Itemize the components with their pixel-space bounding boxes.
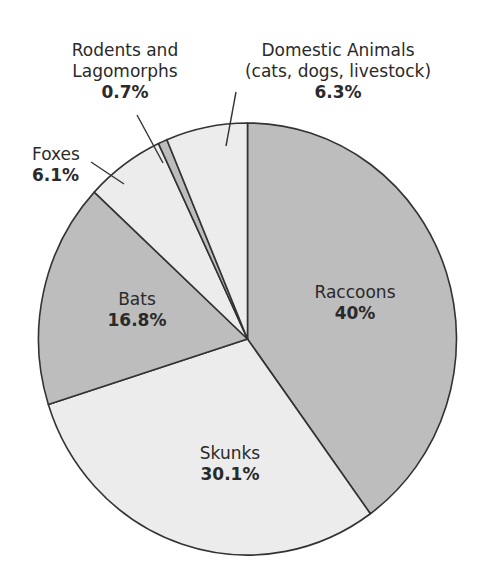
pie-slices [39, 123, 457, 555]
label-rodents-line2: Lagomorphs [60, 61, 190, 82]
label-bats-name: Bats [82, 289, 192, 310]
label-domestic: Domestic Animals (cats, dogs, livestock)… [228, 40, 448, 103]
label-foxes-pct: 6.1% [32, 165, 80, 186]
label-skunks-pct: 30.1% [170, 464, 290, 485]
label-domestic-line2: (cats, dogs, livestock) [228, 61, 448, 82]
label-bats-pct: 16.8% [82, 310, 192, 331]
label-raccoons: Raccoons 40% [290, 282, 420, 324]
label-rodents-pct: 0.7% [60, 82, 190, 103]
label-rodents: Rodents and Lagomorphs 0.7% [60, 40, 190, 103]
label-domestic-line1: Domestic Animals [228, 40, 448, 61]
label-domestic-pct: 6.3% [228, 82, 448, 103]
label-raccoons-pct: 40% [290, 303, 420, 324]
label-raccoons-name: Raccoons [290, 282, 420, 303]
label-skunks: Skunks 30.1% [170, 443, 290, 485]
label-foxes-name: Foxes [32, 144, 80, 165]
label-foxes: Foxes 6.1% [32, 144, 80, 186]
label-rodents-line1: Rodents and [60, 40, 190, 61]
label-skunks-name: Skunks [170, 443, 290, 464]
label-bats: Bats 16.8% [82, 289, 192, 331]
